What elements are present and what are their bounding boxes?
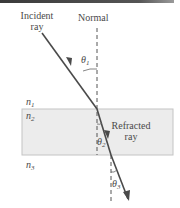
n3-label: n3 (26, 159, 35, 174)
incident-ray (42, 33, 97, 109)
n1-label: n1 (26, 96, 35, 111)
incident-arrow-icon (66, 57, 72, 66)
exit-arrow-icon (123, 190, 130, 201)
theta1-arc (83, 69, 97, 71)
incident-label: Incident ray (14, 10, 60, 32)
normal-label: Normal (78, 12, 109, 23)
theta3-arc (111, 170, 117, 172)
theta1-label: θ1 (81, 54, 89, 69)
theta2-label: θ2 (97, 136, 105, 151)
refracted-label: Refracted ray (106, 120, 156, 142)
theta3-label: θ3 (112, 178, 120, 193)
n2-label: n2 (26, 110, 35, 125)
